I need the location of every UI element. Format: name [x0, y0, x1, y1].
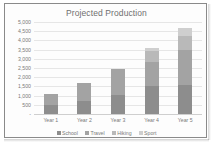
legend-item-travel[interactable]: Travel [85, 130, 105, 136]
y-axis-tick-label: 2,000 [5, 74, 31, 80]
gridline [34, 114, 202, 115]
bar-column[interactable] [178, 28, 192, 114]
plot-area: -5001,0001,5002,0002,5003,0003,5004,0004… [34, 22, 202, 114]
gridline [34, 31, 202, 32]
x-axis-tick-label: Year 4 [144, 117, 159, 123]
y-axis-tick-label: 5,000 [5, 19, 31, 25]
gridline [34, 59, 202, 60]
y-axis-tick-label: 4,000 [5, 37, 31, 43]
bar-segment-hiking[interactable] [178, 36, 192, 50]
x-axis-tick-label: Year 2 [77, 117, 92, 123]
bar-column[interactable] [111, 69, 125, 114]
gridline [34, 40, 202, 41]
y-axis-tick-label: 2,500 [5, 65, 31, 71]
y-axis-tick-label: 1,000 [5, 93, 31, 99]
legend-item-school[interactable]: School [57, 130, 78, 136]
bar-segment-travel[interactable] [145, 62, 159, 87]
bar-segment-school[interactable] [44, 105, 58, 114]
legend-item-label: Travel [90, 130, 104, 136]
x-axis-tick-label: Year 3 [111, 117, 126, 123]
chart-title: Projected Production [5, 8, 208, 18]
legend-item-hiking[interactable]: Hiking [112, 130, 132, 136]
x-axis-tick-label: Year 5 [178, 117, 193, 123]
page-shadow-right [208, 4, 211, 140]
y-axis-tick-label: 3,000 [5, 56, 31, 62]
bar-segment-travel[interactable] [77, 83, 91, 101]
bar-segment-travel[interactable] [44, 94, 58, 105]
chart-legend: SchoolTravelHikingSport [5, 130, 208, 136]
legend-swatch-icon [139, 131, 143, 135]
bar-segment-sport[interactable] [178, 28, 192, 36]
legend-swatch-icon [112, 131, 116, 135]
y-axis-tick-label: - [5, 111, 31, 117]
bar-segment-travel[interactable] [111, 69, 125, 95]
bar-segment-school[interactable] [145, 86, 159, 114]
x-axis-tick-label: Year 1 [43, 117, 58, 123]
page-shadow-bottom [4, 139, 209, 142]
bar-column[interactable] [44, 94, 58, 114]
bar-column[interactable] [77, 83, 91, 114]
y-axis-tick-label: 4,500 [5, 28, 31, 34]
chart-container[interactable]: Projected Production -5001,0001,5002,000… [4, 3, 207, 138]
legend-item-sport[interactable]: Sport [139, 130, 157, 136]
bar-segment-school[interactable] [111, 95, 125, 114]
legend-item-label: School [62, 130, 78, 136]
y-axis-tick-label: 500 [5, 102, 31, 108]
bar-segment-travel[interactable] [178, 50, 192, 85]
legend-item-label: Sport [144, 130, 156, 136]
y-axis-tick-label: 1,500 [5, 83, 31, 89]
bar-segment-school[interactable] [77, 101, 91, 114]
bar-segment-school[interactable] [178, 85, 192, 114]
gridline [34, 22, 202, 23]
bar-column[interactable] [145, 48, 159, 114]
legend-swatch-icon [57, 131, 61, 135]
y-axis-tick-label: 3,500 [5, 47, 31, 53]
legend-swatch-icon [85, 131, 89, 135]
legend-item-label: Hiking [117, 130, 131, 136]
gridline [34, 50, 202, 51]
bar-segment-hiking[interactable] [145, 51, 159, 61]
